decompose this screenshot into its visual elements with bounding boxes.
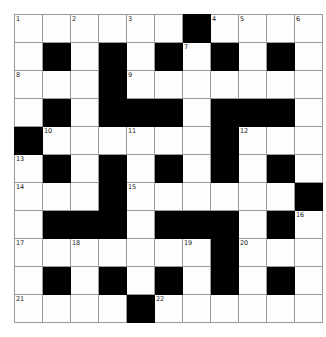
grid-cell[interactable] [239, 155, 267, 183]
grid-cell[interactable] [71, 127, 99, 155]
grid-cell[interactable] [155, 15, 183, 43]
grid-cell[interactable]: 17 [15, 239, 43, 267]
grid-cell[interactable] [295, 99, 323, 127]
cell-number: 14 [16, 183, 24, 191]
grid-cell[interactable] [211, 183, 239, 211]
grid-cell[interactable] [239, 295, 267, 323]
grid-cell[interactable] [99, 127, 127, 155]
grid-cell[interactable] [127, 155, 155, 183]
grid-cell[interactable]: 22 [155, 295, 183, 323]
grid-cell[interactable]: 15 [127, 183, 155, 211]
grid-cell[interactable] [43, 71, 71, 99]
grid-cell[interactable] [239, 183, 267, 211]
grid-cell[interactable] [155, 127, 183, 155]
grid-cell[interactable]: 3 [127, 15, 155, 43]
grid-cell[interactable] [71, 295, 99, 323]
grid-cell[interactable] [239, 71, 267, 99]
grid-cell-block [43, 211, 71, 239]
grid-cell[interactable]: 4 [211, 15, 239, 43]
grid-cell[interactable] [295, 71, 323, 99]
grid-row: 89 [15, 71, 323, 99]
grid-cell[interactable] [267, 127, 295, 155]
grid-cell-block [99, 183, 127, 211]
grid-cell[interactable] [183, 99, 211, 127]
grid-cell[interactable] [183, 155, 211, 183]
grid-cell[interactable]: 21 [15, 295, 43, 323]
grid-cell[interactable] [239, 43, 267, 71]
grid-cell[interactable]: 16 [295, 211, 323, 239]
grid-cell[interactable]: 11 [127, 127, 155, 155]
grid-cell[interactable]: 13 [15, 155, 43, 183]
grid-cell[interactable] [43, 15, 71, 43]
grid-row: 123456 [15, 15, 323, 43]
grid-cell-block [43, 99, 71, 127]
grid-cell[interactable] [267, 295, 295, 323]
grid-cell[interactable] [43, 239, 71, 267]
grid-cell[interactable] [295, 127, 323, 155]
grid-cell[interactable] [15, 99, 43, 127]
grid-cell[interactable] [71, 183, 99, 211]
grid-cell[interactable]: 8 [15, 71, 43, 99]
grid-cell[interactable] [155, 183, 183, 211]
grid-cell[interactable] [99, 15, 127, 43]
grid-cell[interactable] [43, 295, 71, 323]
grid-cell[interactable]: 6 [295, 15, 323, 43]
cell-number: 17 [16, 239, 24, 247]
grid-cell[interactable] [295, 155, 323, 183]
grid-cell[interactable] [71, 155, 99, 183]
grid-cell[interactable] [127, 43, 155, 71]
grid-cell[interactable] [155, 71, 183, 99]
grid-cell[interactable]: 19 [183, 239, 211, 267]
grid-cell[interactable] [127, 267, 155, 295]
grid-cell[interactable] [295, 267, 323, 295]
grid-cell[interactable]: 14 [15, 183, 43, 211]
grid-cell[interactable] [239, 267, 267, 295]
grid-cell[interactable] [183, 127, 211, 155]
grid-cell[interactable] [43, 183, 71, 211]
grid-cell[interactable]: 9 [127, 71, 155, 99]
grid-cell[interactable]: 18 [71, 239, 99, 267]
grid-cell[interactable] [267, 183, 295, 211]
grid-cell[interactable]: 12 [239, 127, 267, 155]
grid-cell[interactable] [15, 43, 43, 71]
grid-cell[interactable] [211, 295, 239, 323]
grid-cell[interactable] [71, 71, 99, 99]
grid-cell[interactable] [267, 239, 295, 267]
grid-cell[interactable] [211, 71, 239, 99]
grid-cell[interactable] [99, 239, 127, 267]
grid-cell[interactable] [15, 211, 43, 239]
grid-cell[interactable] [267, 71, 295, 99]
cell-number: 16 [296, 211, 304, 219]
grid-cell[interactable] [267, 15, 295, 43]
grid-cell-block [155, 155, 183, 183]
grid-cell[interactable] [71, 267, 99, 295]
grid-cell[interactable] [155, 239, 183, 267]
grid-cell[interactable] [15, 267, 43, 295]
crossword-app: 12345678910111213141516171819202122 [0, 0, 326, 337]
grid-cell[interactable] [183, 267, 211, 295]
cell-number: 12 [240, 127, 248, 135]
cell-number: 10 [44, 127, 52, 135]
grid-cell[interactable] [295, 295, 323, 323]
crossword-grid[interactable]: 12345678910111213141516171819202122 [14, 14, 323, 323]
grid-cell[interactable]: 20 [239, 239, 267, 267]
grid-cell[interactable] [71, 99, 99, 127]
grid-cell[interactable] [183, 183, 211, 211]
grid-cell[interactable] [295, 43, 323, 71]
grid-cell[interactable] [183, 295, 211, 323]
grid-cell[interactable] [127, 211, 155, 239]
grid-cell[interactable] [295, 239, 323, 267]
grid-cell[interactable] [239, 211, 267, 239]
grid-cell[interactable]: 10 [43, 127, 71, 155]
grid-cell[interactable]: 2 [71, 15, 99, 43]
grid-cell[interactable]: 7 [183, 43, 211, 71]
grid-cell[interactable] [71, 43, 99, 71]
grid-cell[interactable] [127, 239, 155, 267]
grid-cell[interactable] [99, 295, 127, 323]
grid-cell[interactable] [183, 71, 211, 99]
cell-number: 8 [16, 71, 20, 79]
grid-cell[interactable]: 1 [15, 15, 43, 43]
grid-cell-block [267, 211, 295, 239]
grid-cell-block [127, 295, 155, 323]
grid-cell[interactable]: 5 [239, 15, 267, 43]
